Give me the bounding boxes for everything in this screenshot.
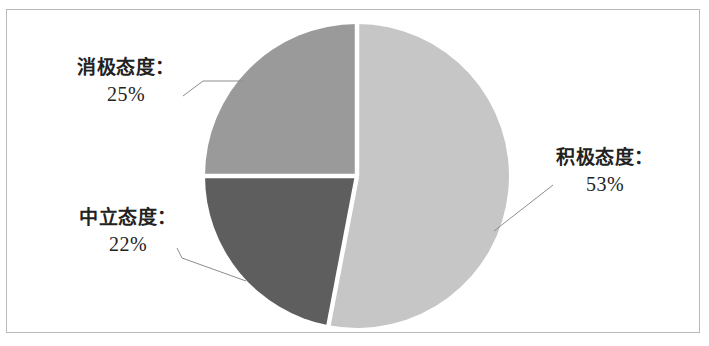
pie-label-positive-name: 积极态度：	[530, 146, 680, 170]
pie-label-negative-name: 消极态度：	[56, 56, 196, 80]
pie-label-negative-value: 25%	[56, 82, 196, 107]
pie-label-neutral-value: 22%	[58, 232, 198, 257]
pie-label-neutral-name: 中立态度：	[58, 206, 198, 230]
pie-label-neutral: 中立态度： 22%	[58, 206, 198, 257]
pie-slice-negative[interactable]	[205, 24, 357, 176]
pie-chart-figure: 消极态度： 25% 中立态度： 22% 积极态度： 53%	[0, 0, 709, 346]
pie-label-negative: 消极态度： 25%	[56, 56, 196, 107]
pie-label-positive-value: 53%	[530, 172, 680, 197]
pie-label-positive: 积极态度： 53%	[530, 146, 680, 197]
